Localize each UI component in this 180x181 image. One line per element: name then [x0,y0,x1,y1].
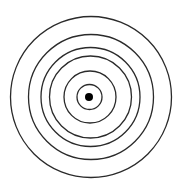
concentric-circles-diagram [0,0,180,181]
center-dot [85,93,93,101]
